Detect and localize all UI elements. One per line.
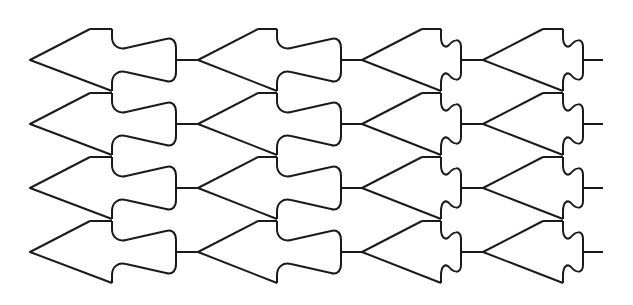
column-3-lobe [441,157,461,219]
column-4-chevron [483,93,563,155]
column-2-chevron [198,221,277,283]
column-3-chevron [362,29,441,91]
column-1-chevron [30,157,112,219]
column-3-lobe [441,221,461,283]
column-2-lobe [277,93,341,155]
column-4-chevron [483,29,563,91]
column-3-lobe [441,29,461,91]
tessellation-diagram [0,0,633,305]
column-4-lobe [563,221,583,283]
column-4-lobe [563,93,583,155]
column-1-lobe [112,29,176,91]
column-4-chevron [483,157,563,219]
column-4-chevron [483,221,563,283]
column-2-chevron [198,29,277,91]
column-1-lobe [112,221,176,283]
column-1-chevron [30,221,112,283]
column-2-lobe [277,29,341,91]
column-1-lobe [112,157,176,219]
column-4-lobe [563,157,583,219]
column-3-chevron [362,221,441,283]
column-2-lobe [277,157,341,219]
column-4-lobe [563,29,583,91]
column-2-chevron [198,93,277,155]
column-2-lobe [277,221,341,283]
column-3-chevron [362,93,441,155]
column-2-chevron [198,157,277,219]
column-1-chevron [30,29,112,91]
column-1-lobe [112,93,176,155]
column-3-chevron [362,157,441,219]
column-3-lobe [441,93,461,155]
column-1-chevron [30,93,112,155]
shape-group [30,29,603,283]
